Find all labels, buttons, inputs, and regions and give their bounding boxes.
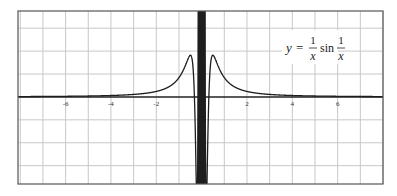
x-tick-label: -6	[63, 100, 69, 108]
x-tick-label: 2	[245, 100, 249, 108]
curves	[18, 0, 383, 196]
formula-equals: =	[296, 40, 303, 55]
formula-frac2-numerator: 1	[338, 34, 344, 46]
x-tick-label: 6	[336, 100, 340, 108]
chart: -6-4-2246 y = 1 x sin 1 x	[0, 0, 397, 196]
formula-frac1-numerator: 1	[310, 34, 316, 46]
formula-annotation: y = 1 x sin 1 x	[282, 30, 345, 64]
x-tick-label: 4	[291, 100, 295, 108]
formula-lhs: y	[284, 40, 292, 55]
formula-frac2-denominator: x	[337, 49, 344, 63]
curve-left-branch	[18, 0, 202, 196]
formula-function: sin	[320, 41, 334, 55]
oscillation-band	[198, 11, 206, 184]
formula-frac1-denominator: x	[309, 49, 316, 63]
x-tick-label: -2	[153, 100, 159, 108]
x-tick-label: -4	[108, 100, 114, 108]
